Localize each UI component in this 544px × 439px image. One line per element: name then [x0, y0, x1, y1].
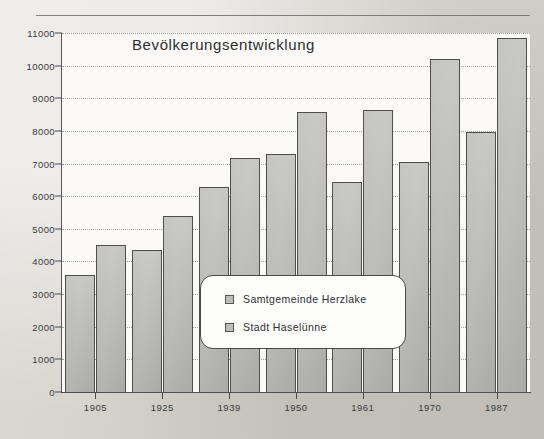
x-tick-mark: [229, 392, 230, 399]
chart-title: Bevölkerungsentwicklung: [132, 36, 315, 53]
y-tick-mark: [55, 359, 62, 360]
y-tick-label: 4000: [32, 256, 55, 267]
y-tick-mark: [55, 130, 62, 131]
x-tick-mark: [296, 392, 297, 399]
y-tick-label: 3000: [32, 289, 55, 300]
y-tick-label: 10000: [27, 60, 55, 71]
x-tick-label: 1961: [351, 402, 374, 413]
bar: [297, 112, 327, 393]
figure-canvas: 0100020003000400050006000700080009000100…: [0, 0, 544, 439]
bar: [399, 162, 429, 393]
y-tick-label: 0: [49, 387, 55, 398]
legend-swatch-icon: [225, 323, 234, 332]
bar: [266, 154, 296, 393]
x-tick-label: 1939: [218, 402, 241, 413]
y-tick-mark: [55, 163, 62, 164]
bar: [163, 216, 193, 393]
y-tick-mark: [55, 326, 62, 327]
x-tick-label: 1950: [284, 402, 307, 413]
x-tick-label: 1925: [151, 402, 174, 413]
x-tick-label: 1970: [418, 402, 441, 413]
y-tick-mark: [55, 33, 62, 34]
bar: [497, 38, 527, 393]
x-tick-mark: [95, 392, 96, 399]
y-tick-mark: [55, 261, 62, 262]
legend-item-0: Samtgemeinde Herzlake: [225, 293, 366, 305]
x-tick-mark: [363, 392, 364, 399]
y-axis-line: [61, 33, 62, 393]
legend-item-1: Stadt Haselünne: [225, 321, 327, 333]
legend-item-label: Stadt Haselünne: [243, 321, 327, 333]
legend-swatch-icon: [225, 295, 234, 304]
x-tick-label: 1905: [84, 402, 107, 413]
header-rule: [36, 15, 530, 16]
y-tick-label: 11000: [27, 28, 55, 39]
x-tick-mark: [430, 392, 431, 399]
bar: [466, 132, 496, 393]
x-tick-mark: [162, 392, 163, 399]
y-tick-mark: [55, 98, 62, 99]
y-tick-label: 9000: [32, 93, 55, 104]
x-tick-label: 1987: [485, 402, 508, 413]
bar: [430, 59, 460, 393]
y-tick-label: 8000: [32, 125, 55, 136]
y-tick-mark: [55, 294, 62, 295]
bar: [65, 275, 95, 393]
y-tick-label: 1000: [32, 354, 55, 365]
y-tick-mark: [55, 392, 62, 393]
legend-item-label: Samtgemeinde Herzlake: [243, 293, 366, 305]
y-tick-label: 5000: [32, 223, 55, 234]
bar: [132, 250, 162, 393]
y-tick-label: 7000: [32, 158, 55, 169]
chart-legend: Samtgemeinde Herzlake Stadt Haselünne: [200, 275, 406, 349]
y-tick-label: 2000: [32, 321, 55, 332]
bar: [363, 110, 393, 393]
y-tick-mark: [55, 196, 62, 197]
y-tick-label: 6000: [32, 191, 55, 202]
x-tick-mark: [497, 392, 498, 399]
y-tick-mark: [55, 65, 62, 66]
bar: [96, 245, 126, 393]
y-tick-mark: [55, 228, 62, 229]
gridline: [62, 33, 530, 34]
